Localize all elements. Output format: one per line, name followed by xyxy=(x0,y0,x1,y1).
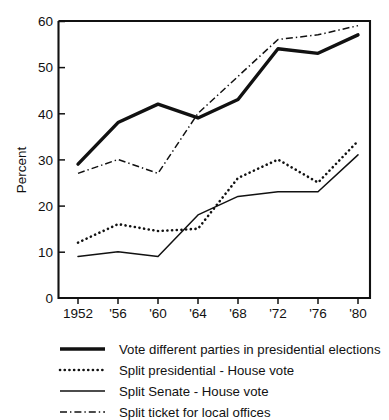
x-axis-tick-labels: 1952 '56 '60 '64 '68 '72 '76 '80 xyxy=(63,306,367,321)
x-tick-label-1972: '72 xyxy=(269,306,287,321)
x-tick-label-1980: '80 xyxy=(349,306,367,321)
y-tick-label-60: 60 xyxy=(38,14,53,29)
x-tick-label-1976: '76 xyxy=(309,306,327,321)
x-tick-label-1952: 1952 xyxy=(63,306,93,321)
y-axis-tick-labels: 60 50 40 30 20 10 0 xyxy=(38,14,53,306)
legend-label-0: Vote different parties in presidential e… xyxy=(119,342,381,357)
legend-item-1[interactable]: Split presidential - House vote xyxy=(60,363,294,378)
line-chart: 60 50 40 30 20 10 0 Percent 1952 '56 '60… xyxy=(0,0,389,420)
legend-label-1: Split presidential - House vote xyxy=(119,363,294,378)
y-tick-label-10: 10 xyxy=(38,245,53,260)
plot-frame xyxy=(59,21,371,298)
x-tick-label-1964: '64 xyxy=(189,306,207,321)
legend-label-3: Split ticket for local offices xyxy=(119,405,271,420)
legend-item-0[interactable]: Vote different parties in presidential e… xyxy=(60,342,381,357)
y-tick-label-40: 40 xyxy=(38,107,53,122)
y-axis-title: Percent xyxy=(14,146,29,193)
chart-figure: 60 50 40 30 20 10 0 Percent 1952 '56 '60… xyxy=(0,0,389,420)
chart-legend: Vote different parties in presidential e… xyxy=(60,342,381,420)
legend-item-2[interactable]: Split Senate - House vote xyxy=(60,384,269,399)
series-vote-different-parties xyxy=(78,35,358,164)
series-group xyxy=(78,26,358,257)
series-split-ticket-local-offices xyxy=(78,26,358,174)
x-tick-label-1960: '60 xyxy=(149,306,167,321)
y-tick-label-50: 50 xyxy=(38,60,53,75)
legend-label-2: Split Senate - House vote xyxy=(119,384,269,399)
y-tick-label-30: 30 xyxy=(38,153,53,168)
x-tick-label-1956: '56 xyxy=(109,306,127,321)
x-tick-label-1968: '68 xyxy=(229,306,247,321)
y-tick-label-0: 0 xyxy=(45,291,53,306)
legend-item-3[interactable]: Split ticket for local offices xyxy=(60,405,271,420)
series-split-senate-house xyxy=(78,155,358,257)
y-tick-label-20: 20 xyxy=(38,199,53,214)
